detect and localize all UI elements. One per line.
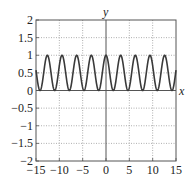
axes (36, 20, 176, 161)
x-tick-label: 10 (147, 163, 159, 177)
y-tick-label: −1.5 (11, 136, 33, 150)
x-tick-label: −5 (76, 163, 89, 177)
y-tick-label: 2 (27, 13, 33, 27)
x-tick-label: −10 (50, 163, 69, 177)
y-axis-label: y (102, 5, 109, 19)
x-tick-labels: −15−10−5051015 (27, 163, 182, 177)
x-axis-label: x (178, 84, 185, 98)
y-tick-labels: −2−1.5−1−0.500.511.52 (11, 13, 33, 168)
x-tick-label: 0 (103, 163, 109, 177)
chart: −15−10−5051015 −2−1.5−1−0.500.511.52 x y (0, 0, 191, 186)
y-tick-label: −2 (20, 154, 33, 168)
x-tick-label: 5 (126, 163, 132, 177)
y-tick-label: 1.5 (18, 31, 33, 45)
y-tick-label: 0.5 (18, 66, 33, 80)
y-tick-label: −1 (20, 119, 33, 133)
y-tick-label: 0 (27, 84, 33, 98)
y-tick-label: −0.5 (11, 101, 33, 115)
y-tick-label: 1 (27, 48, 33, 62)
x-tick-label: 15 (170, 163, 182, 177)
